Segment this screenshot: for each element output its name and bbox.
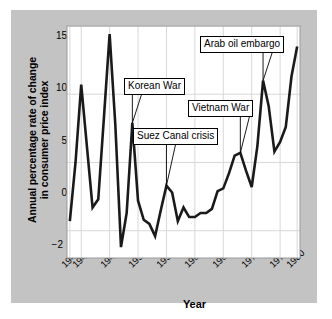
- annotation-korean-war: Korean War: [124, 78, 185, 95]
- annotation-suez-canal-crisis: Suez Canal crisis: [133, 128, 218, 145]
- plot-svg: [11, 10, 317, 303]
- annotation-arab-oil-embargo: Arab oil embargo: [200, 36, 284, 53]
- chart-figure: Annual percentage rate of change in cons…: [0, 0, 332, 319]
- chart-panel: Annual percentage rate of change in cons…: [11, 10, 317, 303]
- annotation-vietnam-war: Vietnam War: [188, 100, 253, 117]
